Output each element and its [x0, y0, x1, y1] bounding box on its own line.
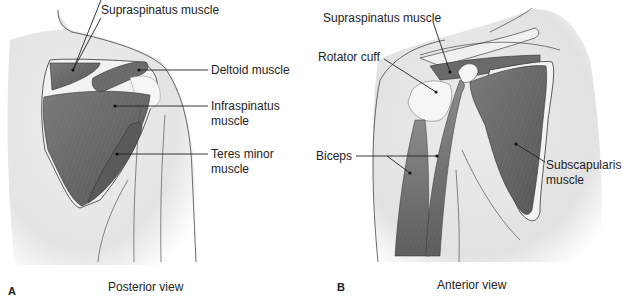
label-infraspinatus-line1: Infraspinatus [211, 99, 280, 114]
caption-posterior-view: Posterior view [108, 280, 183, 294]
panel-letter-b: B [337, 281, 345, 293]
label-subscapularis-b: Subscapularis muscle [546, 158, 621, 188]
label-infraspinatus-a: Infraspinatus muscle [211, 99, 280, 129]
label-teres-minor-line2: muscle [211, 162, 274, 177]
label-teres-minor-line1: Teres minor [211, 147, 274, 162]
label-supraspinatus-b: Supraspinatus muscle [323, 11, 441, 26]
label-biceps-b: Biceps [316, 149, 352, 164]
label-subscapularis-line1: Subscapularis [546, 158, 621, 173]
label-rotator-cuff-b: Rotator cuff [318, 50, 380, 65]
label-supraspinatus-a: Supraspinatus muscle [101, 3, 219, 18]
label-infraspinatus-line2: muscle [211, 114, 280, 129]
panel-letter-a: A [8, 285, 16, 297]
label-deltoid-a: Deltoid muscle [211, 63, 290, 78]
anterior-view-illustration [356, 8, 602, 262]
caption-anterior-view: Anterior view [437, 278, 506, 292]
label-subscapularis-line2: muscle [546, 173, 621, 188]
label-teres-minor-a: Teres minor muscle [211, 147, 274, 177]
posterior-view-illustration [8, 0, 208, 265]
